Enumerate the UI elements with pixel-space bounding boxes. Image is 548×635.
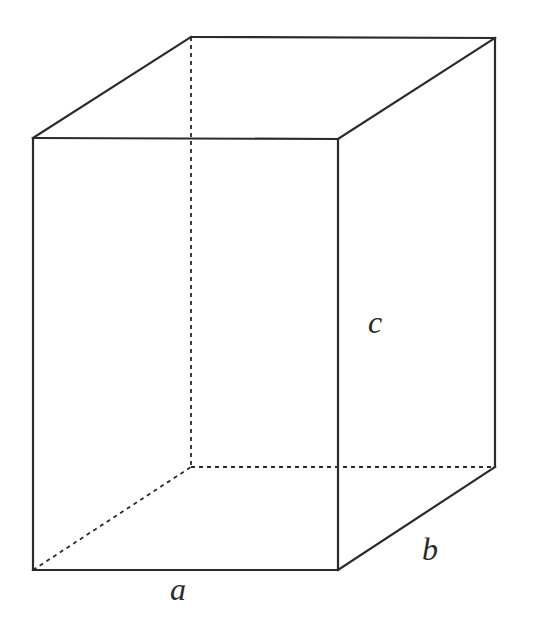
label-a: a bbox=[170, 571, 186, 607]
edge-top-left-depth bbox=[33, 37, 191, 138]
edge-top-back bbox=[191, 37, 495, 38]
edge-top-right-depth bbox=[338, 38, 495, 139]
cuboid-figure: a b c bbox=[0, 0, 548, 635]
edge-bottom-right-depth bbox=[338, 467, 495, 570]
label-c: c bbox=[368, 304, 382, 340]
cuboid-diagram: a b c bbox=[0, 0, 548, 635]
label-b: b bbox=[422, 531, 438, 567]
edge-top-front bbox=[33, 138, 338, 139]
hidden-edge-bottom-depth bbox=[33, 467, 191, 570]
